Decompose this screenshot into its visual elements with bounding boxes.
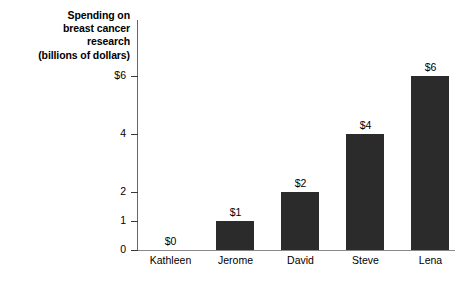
plot-area: $0$1$2$4$6 xyxy=(138,20,455,250)
y-axis-title: Spending on breast cancer research (bill… xyxy=(8,9,130,62)
y-axis-title-line-2: breast cancer xyxy=(8,22,130,35)
y-axis-tick-mark xyxy=(131,250,138,251)
bar-value-label: $6 xyxy=(398,62,463,73)
y-axis-tick-mark xyxy=(131,76,138,77)
bar-slot: $6 xyxy=(398,20,463,250)
y-axis-tick-label: 1 xyxy=(66,215,126,226)
bar-chart: Spending on breast cancer research (bill… xyxy=(0,0,470,283)
bar[interactable] xyxy=(346,134,384,250)
bar-slot: $0 xyxy=(138,20,203,250)
y-axis-tick-label: $6 xyxy=(66,70,126,81)
y-axis-tick-mark xyxy=(131,221,138,222)
y-axis-tick-label: 4 xyxy=(66,128,126,139)
x-axis-category-label: Lena xyxy=(392,254,470,266)
bar-value-label: $1 xyxy=(203,207,268,218)
y-axis-tick-label: 0 xyxy=(66,244,126,255)
y-axis-tick-mark xyxy=(131,192,138,193)
y-axis-title-line-4: (billions of dollars) xyxy=(8,49,130,62)
bar-value-label: $0 xyxy=(138,236,203,247)
y-axis-tick-mark xyxy=(131,134,138,135)
bar-slot: $4 xyxy=(333,20,398,250)
bar-value-label: $2 xyxy=(268,178,333,189)
bar[interactable] xyxy=(216,221,254,250)
bar-slot: $2 xyxy=(268,20,333,250)
bar-value-label: $4 xyxy=(333,120,398,131)
bar[interactable] xyxy=(411,76,449,250)
bar[interactable] xyxy=(281,192,319,250)
x-axis-line xyxy=(137,250,455,251)
bar-slot: $1 xyxy=(203,20,268,250)
y-axis-title-line-3: research xyxy=(8,35,130,48)
y-axis-title-line-1: Spending on xyxy=(8,9,130,22)
y-axis-tick-label: 2 xyxy=(66,186,126,197)
